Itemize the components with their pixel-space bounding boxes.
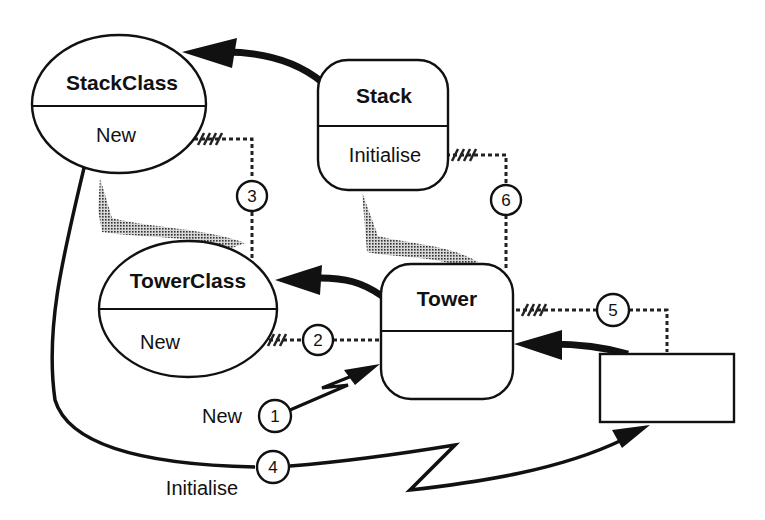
svg-text:2: 2 bbox=[313, 331, 322, 350]
stack-title: Stack bbox=[356, 84, 412, 107]
step-6-badge: 6 bbox=[491, 185, 521, 215]
stackclass-title: StackClass bbox=[66, 71, 178, 94]
tower-title: Tower bbox=[417, 287, 477, 310]
node-stack[interactable]: Stack Initialise bbox=[318, 60, 448, 190]
instance-arrow-stack-to-stackclass bbox=[182, 38, 322, 82]
towerclass-title: TowerClass bbox=[130, 269, 246, 292]
towerclass-method-new[interactable]: New bbox=[140, 331, 181, 353]
svg-text:4: 4 bbox=[268, 458, 277, 477]
step-4-badge: 4 bbox=[257, 451, 289, 483]
stack-method-initialise[interactable]: Initialise bbox=[349, 144, 421, 166]
svg-text:5: 5 bbox=[608, 301, 617, 320]
class-message-diagram: StackClass New Stack Initialise TowerCla… bbox=[0, 0, 765, 520]
node-client[interactable] bbox=[600, 354, 734, 422]
label-initialise-message: Initialise bbox=[166, 477, 238, 499]
instance-arrow-tower-to-towerclass bbox=[275, 265, 382, 296]
node-stackclass[interactable]: StackClass New bbox=[32, 35, 206, 173]
label-new-message: New bbox=[202, 405, 243, 427]
step-3-badge: 3 bbox=[237, 181, 267, 211]
message-1-arrow bbox=[290, 364, 380, 410]
inherit-arrow-tower-to-stack bbox=[362, 192, 478, 266]
step-5-badge: 5 bbox=[597, 294, 629, 326]
node-tower[interactable]: Tower bbox=[381, 264, 513, 399]
step-2-badge: 2 bbox=[303, 325, 333, 355]
inherit-arrow-towerclass-to-stackclass bbox=[98, 178, 245, 248]
node-towerclass[interactable]: TowerClass New bbox=[99, 241, 277, 377]
svg-text:6: 6 bbox=[501, 191, 510, 210]
svg-text:1: 1 bbox=[270, 407, 279, 426]
step-1-badge: 1 bbox=[259, 400, 291, 432]
stackclass-method-new[interactable]: New bbox=[96, 124, 137, 146]
svg-text:3: 3 bbox=[247, 187, 256, 206]
